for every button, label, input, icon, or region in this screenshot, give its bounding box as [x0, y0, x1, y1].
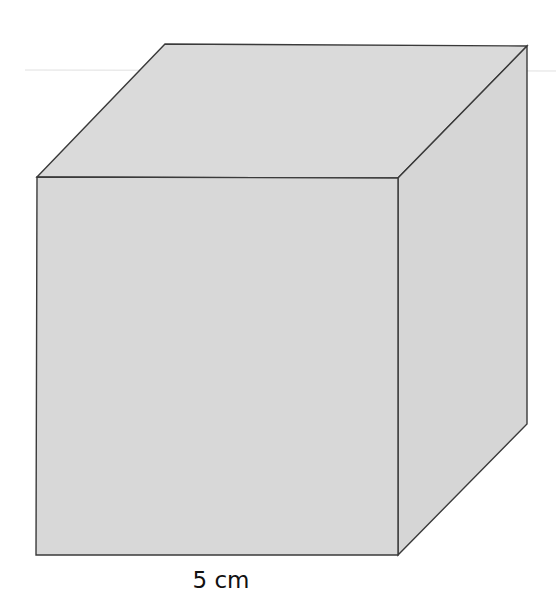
cube-front-face [36, 177, 398, 555]
cube-diagram [0, 0, 556, 614]
edge-length-label: 5 cm [186, 565, 256, 595]
